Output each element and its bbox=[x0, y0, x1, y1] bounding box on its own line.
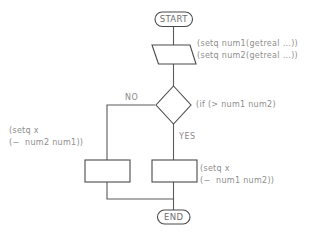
node-input-parallelogram[interactable] bbox=[152, 45, 196, 64]
flowchart-svg: START END NO YES bbox=[0, 0, 332, 245]
node-end-label: END bbox=[164, 212, 184, 222]
node-decision-diamond[interactable] bbox=[156, 86, 191, 124]
flowchart-canvas: START END NO YES (setq num1(getreal ...)… bbox=[0, 0, 332, 245]
annotation-true-branch-code: (setq x (− num1 num2)) bbox=[200, 163, 274, 186]
node-start-label: START bbox=[160, 14, 189, 24]
node-process-false-rect[interactable] bbox=[85, 160, 130, 182]
annotation-input-code: (setq num1(getreal ...)) (setq num2(getr… bbox=[197, 38, 298, 61]
annotation-false-branch-code: (setq x (− num2 num1)) bbox=[9, 125, 83, 148]
branch-label-yes: YES bbox=[178, 132, 196, 141]
connector-false-merge bbox=[107, 182, 174, 199]
node-process-true-rect[interactable] bbox=[152, 160, 197, 182]
connector-decision-no bbox=[107, 105, 155, 160]
annotation-condition-code: (if (> num1 num2) bbox=[196, 99, 276, 111]
branch-label-no: NO bbox=[125, 93, 138, 102]
